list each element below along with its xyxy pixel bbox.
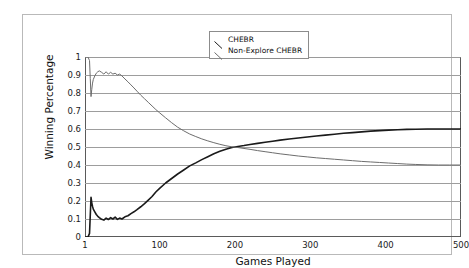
legend-item: CHEBR bbox=[213, 34, 302, 45]
y-tick-label: 0.2 bbox=[67, 197, 81, 206]
x-axis-title: Games Played bbox=[85, 255, 461, 267]
y-tick-label: 0.7 bbox=[67, 107, 81, 116]
y-axis-tick-labels: 00.10.20.30.40.50.60.70.80.91 bbox=[47, 49, 81, 245]
diagonal-line-icon bbox=[213, 35, 225, 45]
legend-label: CHEBR bbox=[228, 35, 254, 45]
x-tick-label: 500 bbox=[453, 240, 469, 250]
y-tick-label: 1 bbox=[76, 53, 81, 62]
x-tick-label: 1 bbox=[82, 240, 87, 250]
x-tick-label: 400 bbox=[378, 240, 394, 250]
y-tick-label: 0.8 bbox=[67, 89, 81, 98]
y-tick-label: 0 bbox=[76, 233, 81, 242]
y-tick-label: 0.4 bbox=[67, 161, 81, 170]
legend: CHEBRNon-Explore CHEBR bbox=[209, 31, 309, 59]
legend-label: Non-Explore CHEBR bbox=[228, 46, 302, 56]
y-tick-label: 0.5 bbox=[67, 143, 81, 152]
y-tick-label: 0.1 bbox=[67, 215, 81, 224]
x-tick-label: 300 bbox=[302, 240, 318, 250]
x-tick-label: 200 bbox=[227, 240, 243, 250]
figure-frame: Winning Percentage 00.10.20.30.40.50.60.… bbox=[22, 14, 452, 255]
plot-area bbox=[85, 57, 461, 237]
y-tick-label: 0.9 bbox=[67, 71, 81, 80]
y-tick-label: 0.3 bbox=[67, 179, 81, 188]
legend-item: Non-Explore CHEBR bbox=[213, 45, 302, 56]
series-lines bbox=[85, 57, 461, 237]
y-tick-label: 0.6 bbox=[67, 125, 81, 134]
x-axis-tick-labels: 1100200300400500 bbox=[85, 240, 461, 254]
x-tick-label: 100 bbox=[151, 240, 167, 250]
series-line bbox=[85, 57, 461, 165]
diagonal-line-icon bbox=[213, 46, 225, 56]
series-line bbox=[85, 129, 461, 237]
